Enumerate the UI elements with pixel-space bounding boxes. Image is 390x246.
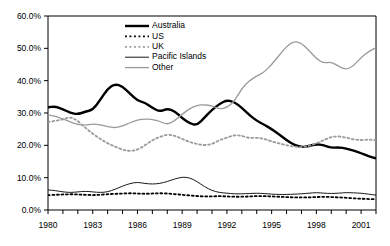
y-tick-label: 40.0%: [17, 76, 42, 86]
chart-background: [0, 0, 390, 246]
x-tick-label: 1986: [128, 220, 147, 230]
y-tick-label: 60.0%: [17, 11, 42, 21]
x-tick-label: 1998: [307, 220, 326, 230]
y-tick-label: 0.0%: [22, 205, 42, 215]
y-tick-label: 20.0%: [17, 140, 42, 150]
legend-label-other: Other: [152, 62, 173, 72]
x-tick-label: 1983: [83, 220, 102, 230]
x-tick-label: 1989: [173, 220, 192, 230]
legend-label-uk: UK: [152, 41, 164, 51]
x-tick-label: 2001: [352, 220, 371, 230]
y-tick-label: 30.0%: [17, 108, 42, 118]
x-tick-label: 1992: [217, 220, 236, 230]
legend-label-us: US: [152, 31, 164, 41]
y-tick-label: 50.0%: [17, 43, 42, 53]
line-chart: 0.0%10.0%20.0%30.0%40.0%50.0%60.0% 19801…: [0, 0, 390, 246]
legend-label-pacific-islands: Pacific Islands: [152, 51, 206, 61]
legend-label-australia: Australia: [152, 20, 185, 30]
y-tick-label: 10.0%: [17, 173, 42, 183]
x-tick-label: 1995: [262, 220, 281, 230]
x-tick-label: 1980: [39, 220, 58, 230]
chart-container: 0.0%10.0%20.0%30.0%40.0%50.0%60.0% 19801…: [0, 0, 390, 246]
